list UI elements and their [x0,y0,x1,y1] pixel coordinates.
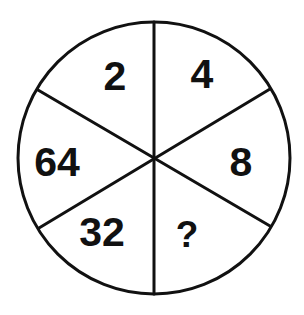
segment-top-right-value: 4 [191,51,214,97]
number-wheel: 2 4 8 ? 32 64 [0,0,304,315]
segment-bottom-left-value: 32 [79,209,125,255]
segment-right-value: 8 [230,139,253,185]
segment-bottom-right-unknown: ? [176,214,199,255]
segment-top-left-value: 2 [104,53,127,99]
segment-left-value: 64 [34,139,80,185]
